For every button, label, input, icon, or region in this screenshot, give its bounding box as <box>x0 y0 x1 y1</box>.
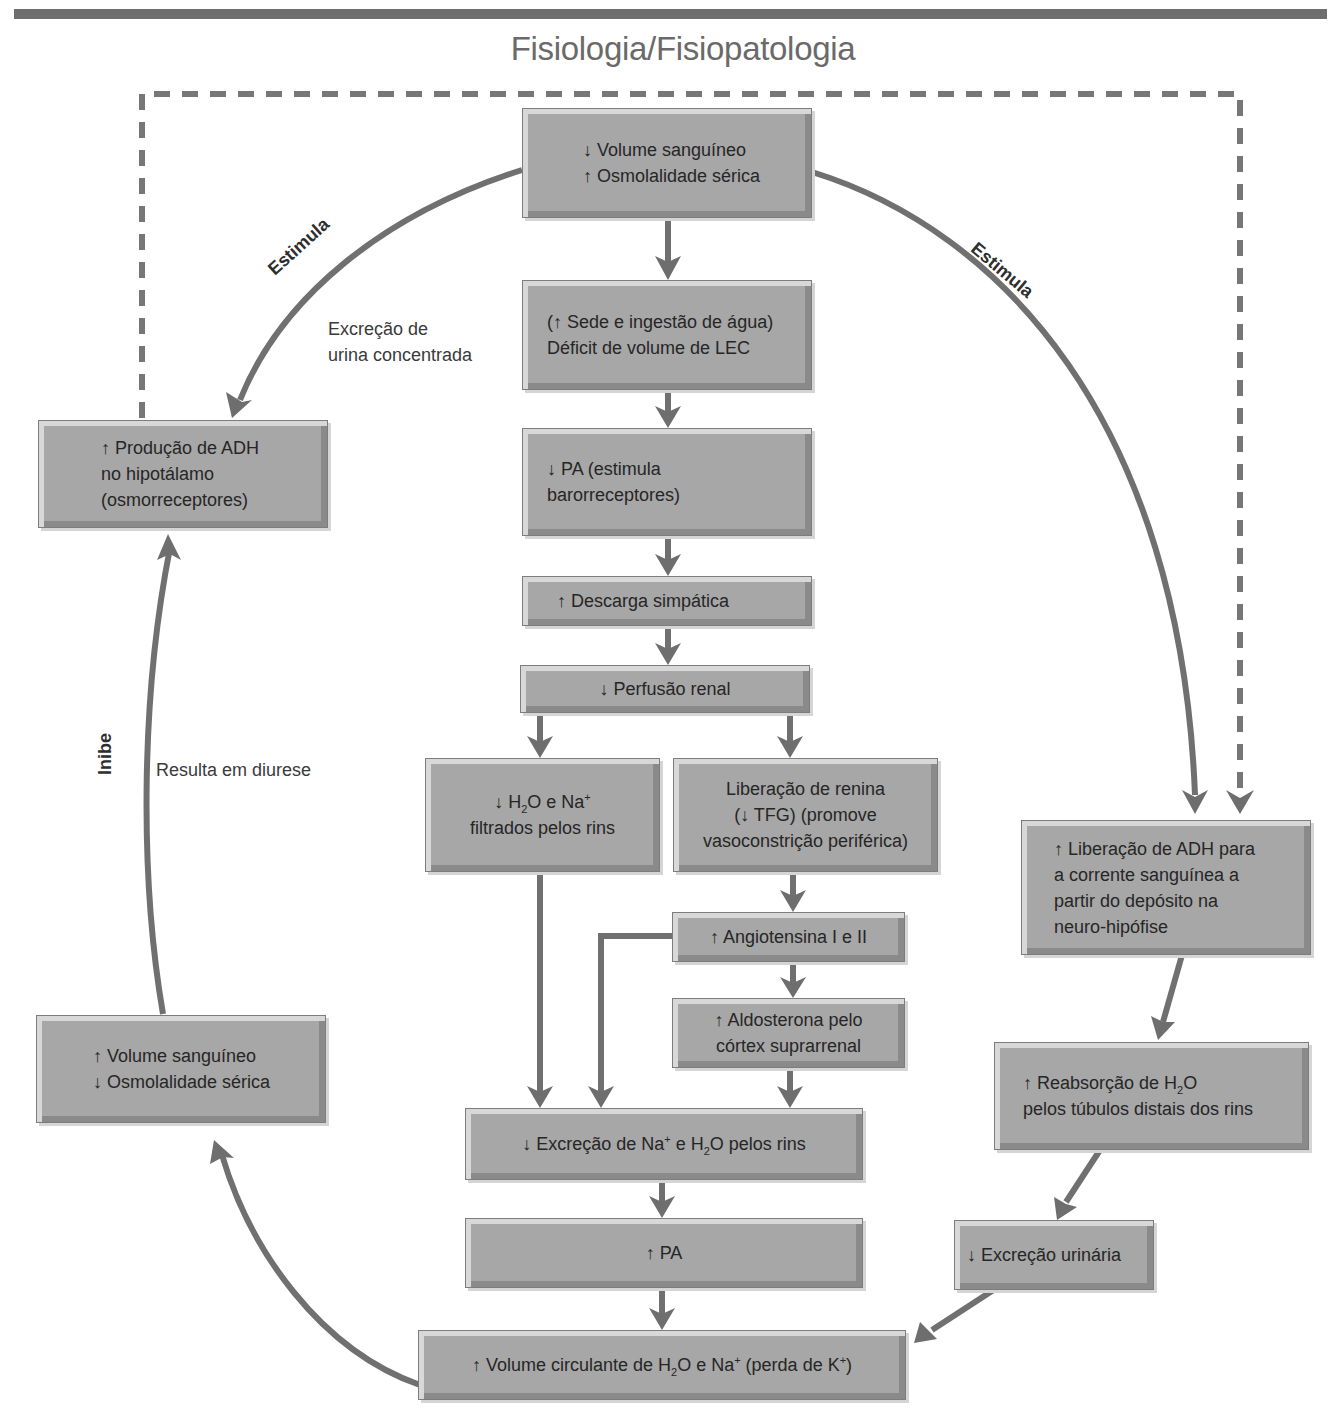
box-text: ↑ Volume circulante de H2O e Na+ (perda … <box>419 1352 905 1378</box>
box-text: ↑ Osmolalidade sérica <box>583 163 793 189</box>
box-text: barorreceptores) <box>547 482 793 508</box>
box-bp-low: ↓ PA (estimula barorreceptores) <box>522 428 812 536</box>
box-text: ↑ Aldosterona pelo <box>679 1007 898 1033</box>
label-diuresis: Resulta em diurese <box>156 757 311 783</box>
box-text: ↓ H2O e Na+ <box>444 789 641 815</box>
box-angiotensin: ↑ Angiotensina I e II <box>672 912 905 962</box>
box-filtered: ↓ H2O e Na+ filtrados pelos rins <box>425 758 660 872</box>
box-adh-release: ↑ Liberação de ADH para a corrente sangu… <box>1021 820 1311 955</box>
box-text: (osmorreceptores) <box>101 487 309 513</box>
box-text: a corrente sanguínea a <box>1054 862 1292 888</box>
box-text: filtrados pelos rins <box>444 815 641 841</box>
box-sympathetic: ↑ Descarga simpática <box>522 576 812 626</box>
box-text: ↓ Osmolalidade sérica <box>93 1069 307 1095</box>
box-blood-volume-low: ↓ Volume sanguíneo ↑ Osmolalidade sérica <box>522 108 812 218</box>
box-circulating-volume: ↑ Volume circulante de H2O e Na+ (perda … <box>418 1330 906 1400</box>
box-text: ↓ Excreção urinária <box>955 1242 1153 1268</box>
box-text: (↓ TFG) (promove <box>680 802 931 828</box>
box-adh-production: ↑ Produção de ADH no hipotálamo (osmorre… <box>38 420 328 528</box>
box-blood-volume-high: ↑ Volume sanguíneo ↓ Osmolalidade sérica <box>36 1015 326 1123</box>
box-excretion-na: ↓ Excreção de Na+ e H2O pelos rins <box>465 1108 863 1180</box>
dashed-arrowhead <box>1226 790 1254 814</box>
label-concentrated-urine-2: urina concentrada <box>328 342 472 368</box>
box-text: (↑ Sede e ingestão de água) <box>547 309 793 335</box>
box-renal-perfusion: ↓ Perfusão renal <box>520 665 810 713</box>
box-thirst: (↑ Sede e ingestão de água) Déficit de v… <box>522 280 812 390</box>
box-renin: Liberação de renina (↓ TFG) (promove vas… <box>673 758 938 872</box>
box-text: partir do depósito na <box>1054 888 1292 914</box>
box-aldosterone: ↑ Aldosterona pelo córtex suprarrenal <box>672 998 905 1068</box>
label-inhibits: Inibe <box>92 733 118 775</box>
box-reabsorption: ↑ Reabsorção de H2O pelos túbulos distai… <box>994 1042 1309 1150</box>
box-text: córtex suprarrenal <box>679 1033 898 1059</box>
box-bp-high: ↑ PA <box>465 1218 863 1288</box>
box-text: pelos túbulos distais dos rins <box>1023 1096 1290 1122</box>
label-concentrated-urine-1: Excreção de <box>328 316 428 342</box>
box-urinary-excretion: ↓ Excreção urinária <box>954 1220 1154 1290</box>
box-text: ↓ Perfusão renal <box>521 676 809 702</box>
box-text: ↓ PA (estimula <box>547 456 793 482</box>
box-text: ↑ Angiotensina I e II <box>673 924 904 950</box>
box-text: ↑ Reabsorção de H2O <box>1023 1070 1290 1096</box>
box-text: ↑ Volume sanguíneo <box>93 1043 307 1069</box>
box-text: ↓ Excreção de Na+ e H2O pelos rins <box>466 1131 862 1157</box>
box-text: ↑ Descarga simpática <box>523 588 811 614</box>
box-text: Déficit de volume de LEC <box>547 335 793 361</box>
box-text: vasoconstrição periférica) <box>680 828 931 854</box>
box-text: Liberação de renina <box>680 776 931 802</box>
box-text: ↑ PA <box>466 1240 862 1266</box>
arc-diuresis <box>222 1155 420 1385</box>
box-text: ↓ Volume sanguíneo <box>583 137 793 163</box>
box-text: no hipotálamo <box>101 461 309 487</box>
box-text: ↑ Liberação de ADH para <box>1054 836 1292 862</box>
box-text: neuro-hipófise <box>1054 914 1292 940</box>
box-text: ↑ Produção de ADH <box>101 435 309 461</box>
